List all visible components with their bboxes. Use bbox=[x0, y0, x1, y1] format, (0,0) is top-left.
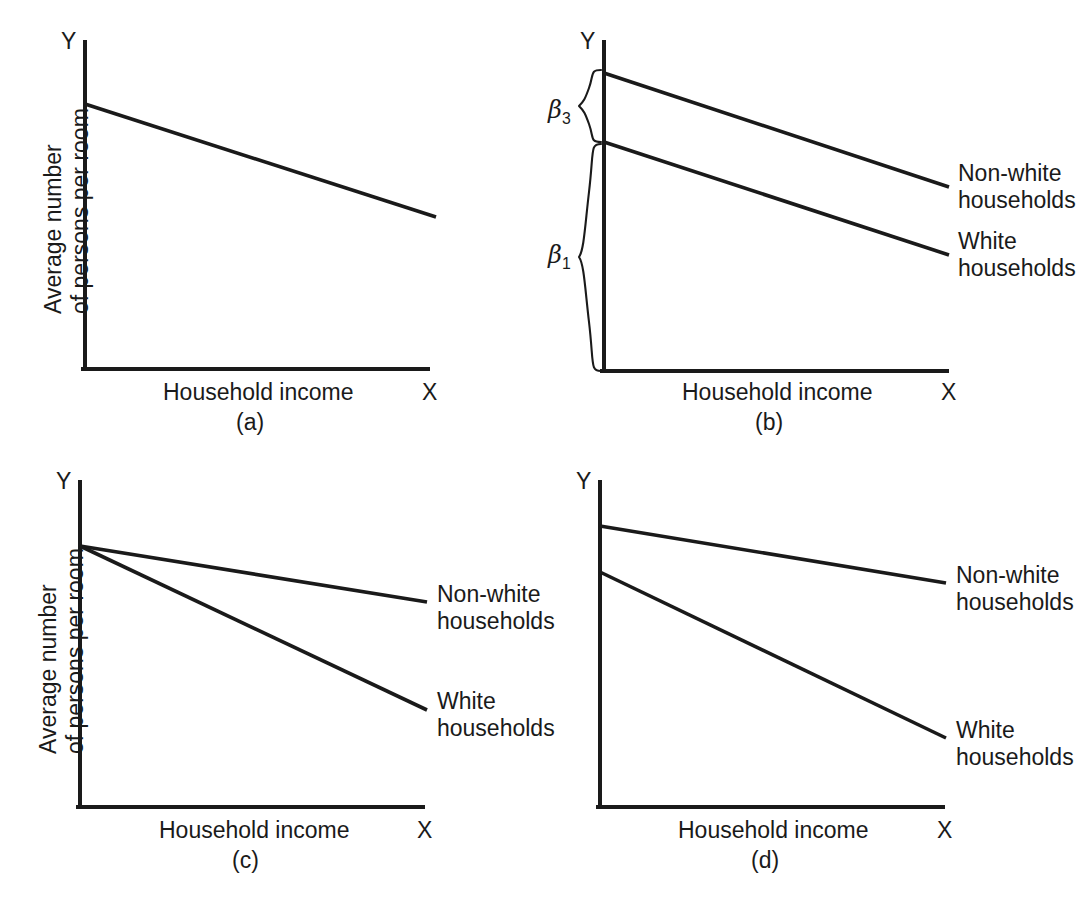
panel-a-x-axis-title: Household income bbox=[163, 379, 354, 406]
panel-b-beta1-label: β1 bbox=[548, 241, 571, 273]
panel-a-x-axis-letter: X bbox=[422, 379, 437, 406]
panel-b-x-axis-title: Household income bbox=[682, 379, 873, 406]
panel-b-nonwhite-label-line2: households bbox=[958, 187, 1076, 213]
beta1-brace bbox=[579, 144, 601, 371]
panel-c-graphics bbox=[78, 482, 427, 807]
panel-b-nonwhite-label: Non-whitehouseholds bbox=[958, 160, 1076, 214]
panel-d-x-axis-title: Household income bbox=[678, 817, 869, 844]
beta3-brace bbox=[579, 70, 601, 142]
panel-b-beta3-label: β3 bbox=[548, 96, 571, 128]
panel-d-caption: (d) bbox=[751, 847, 779, 874]
panel-b-white-label-line2: households bbox=[958, 255, 1076, 281]
panel-d-white-label: Whitehouseholds bbox=[956, 717, 1074, 771]
panel-a-y-axis-title-line1: Average number bbox=[40, 144, 66, 314]
panel-a-y-axis-title-line2: of persons per room bbox=[67, 108, 93, 314]
panel-c-x-axis-letter: X bbox=[417, 817, 432, 844]
panel-c-y-axis-title-line2: of persons per room bbox=[62, 548, 88, 754]
panel-b-white-label: Whitehouseholds bbox=[958, 228, 1076, 282]
panel-c-nonwhite-label-line2: households bbox=[437, 608, 555, 634]
panel-c-nonwhite-label-line1: Non-white bbox=[437, 581, 541, 607]
panel-d-nonwhite-label: Non-whitehouseholds bbox=[956, 562, 1074, 616]
panel-d-y-axis-letter: Y bbox=[576, 468, 591, 495]
panel-c-white-label-line1: White bbox=[437, 688, 496, 714]
panel-a-graphics bbox=[83, 42, 436, 369]
beta3-subscript: 3 bbox=[562, 110, 571, 127]
beta1-subscript: 1 bbox=[562, 255, 571, 272]
panel-c-y-axis-title: Average numberof persons per room bbox=[35, 514, 89, 754]
panel-b-white-line bbox=[604, 142, 949, 255]
panel-d-graphics bbox=[598, 482, 946, 807]
figure-vector-layer bbox=[0, 0, 1092, 898]
panel-b-nonwhite-label-line1: Non-white bbox=[958, 160, 1062, 186]
panel-d-white-label-line2: households bbox=[956, 744, 1074, 770]
panel-d-nonwhite-label-line1: Non-white bbox=[956, 562, 1060, 588]
panel-d-white-line bbox=[600, 572, 946, 738]
panel-c-caption: (c) bbox=[232, 847, 259, 874]
panel-b-nonwhite-line bbox=[604, 73, 949, 187]
panel-b-y-axis-letter: Y bbox=[580, 28, 595, 55]
panel-c-y-axis-letter: Y bbox=[56, 468, 71, 495]
panel-b-x-axis-letter: X bbox=[941, 379, 956, 406]
panel-b-caption: (b) bbox=[755, 409, 783, 436]
panel-c-white-label-line2: households bbox=[437, 715, 555, 741]
beta1-symbol: β bbox=[548, 241, 562, 269]
panel-d-nonwhite-line bbox=[600, 526, 946, 583]
panel-c-white-label: Whitehouseholds bbox=[437, 688, 555, 742]
panel-d-nonwhite-label-line2: households bbox=[956, 589, 1074, 615]
panel-c-nonwhite-line bbox=[80, 546, 427, 602]
panel-a-y-axis-title: Average numberof persons per room bbox=[40, 84, 94, 314]
panel-c-y-axis-title-line1: Average number bbox=[35, 584, 61, 754]
panel-c-x-axis-title: Household income bbox=[159, 817, 350, 844]
panel-a-y-axis-letter: Y bbox=[61, 28, 76, 55]
beta3-symbol: β bbox=[548, 96, 562, 124]
panel-b-white-label-line1: White bbox=[958, 228, 1017, 254]
panel-c-white-line bbox=[80, 546, 427, 710]
figure-container: Y Average numberof persons per room Hous… bbox=[0, 0, 1092, 898]
panel-a-caption: (a) bbox=[236, 409, 264, 436]
panel-c-nonwhite-label: Non-whitehouseholds bbox=[437, 581, 555, 635]
panel-d-x-axis-letter: X bbox=[937, 817, 952, 844]
panel-d-white-label-line1: White bbox=[956, 717, 1015, 743]
panel-a-pooled-line bbox=[85, 104, 436, 217]
panel-b-graphics bbox=[579, 42, 949, 371]
